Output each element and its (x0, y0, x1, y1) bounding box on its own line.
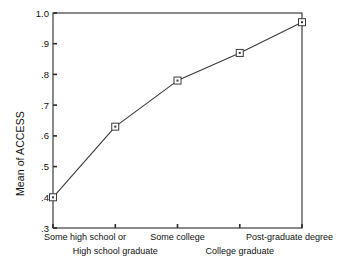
y-tick-label-0.4: .4 (41, 192, 49, 203)
data-point-4 (299, 19, 306, 26)
x-category-label-2: Some college (150, 232, 205, 242)
x-category-label-4: Post-graduate degree (246, 232, 333, 242)
data-point-1 (112, 123, 119, 130)
y-tick-label-0.7: .7 (41, 100, 49, 111)
y-axis-tick-labels: 1.0 .9 .8 .7 .6 .5 .4 .3 (36, 8, 49, 234)
y-tick-label-1.0: 1.0 (36, 8, 49, 19)
data-point-3 (236, 49, 243, 56)
y-tick-label-0.6: .6 (41, 130, 49, 141)
line-chart-plot: 1.0 .9 .8 .7 .6 .5 .4 .3 (0, 0, 337, 268)
x-axis-category-labels: Some high school or Some college Post-gr… (44, 232, 333, 256)
y-tick-label-0.9: .9 (41, 38, 49, 49)
data-point-0 (50, 194, 57, 201)
x-category-label-1: High school graduate (73, 246, 158, 256)
chart-figure: Mean of ACCESS 1.0 .9 .8 .7 .6 .5 .4 .3 (0, 0, 337, 268)
x-category-label-3: College graduate (206, 246, 275, 256)
data-point-2 (174, 77, 181, 84)
x-category-label-0: Some high school or (44, 232, 126, 242)
y-tick-label-0.8: .8 (41, 69, 49, 80)
y-tick-label-0.5: .5 (41, 161, 49, 172)
plot-frame (53, 13, 302, 228)
plot-border (53, 13, 302, 228)
